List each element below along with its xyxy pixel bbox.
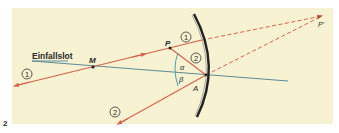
svg-text:2: 2 (113, 108, 117, 117)
figure-number: 2 (3, 119, 8, 128)
svg-text:2: 2 (194, 54, 198, 63)
center-point-m (91, 65, 94, 68)
incidence-point-a (205, 74, 208, 77)
concave-mirror-diagram: Einfallslot M P P' A α β 1 1 2 2 2 (0, 0, 339, 133)
center-label: M (89, 56, 96, 65)
beta-label: β (178, 75, 184, 84)
normal-label: Einfallslot (32, 51, 73, 61)
svg-text:1: 1 (25, 70, 29, 79)
image-point-label: P' (318, 21, 325, 28)
point-p-label: P (165, 39, 171, 48)
figure-background (12, 8, 333, 124)
incidence-point-label: A (192, 84, 198, 93)
svg-text:1: 1 (184, 33, 188, 42)
alpha-label: α (180, 63, 185, 72)
